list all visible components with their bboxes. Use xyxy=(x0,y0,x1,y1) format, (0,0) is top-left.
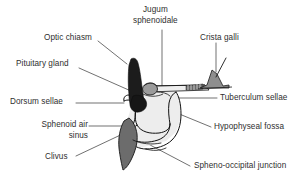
label-tuberculum-sellae-text: Tuberculum sellae xyxy=(220,93,287,102)
pituitary-gland-body xyxy=(130,95,147,112)
optic-chiasm-body xyxy=(143,83,158,95)
label-spheno-occipital-junction: Spheno-occipital junction xyxy=(194,161,286,172)
label-dorsum-sellae-text: Dorsum sellae xyxy=(10,97,63,106)
label-jugum-sphenoidale-line1: Jugum xyxy=(133,5,178,16)
label-tuberculum-sellae: Tuberculum sellae xyxy=(220,93,287,104)
label-pituitary-gland: Pituitary gland xyxy=(16,59,69,70)
label-jugum-sphenoidale: Jugum sphenoidale xyxy=(133,5,178,26)
label-dorsum-sellae: Dorsum sellae xyxy=(10,97,63,108)
label-sphenoid-air-sinus-line2: sinus xyxy=(0,131,88,142)
label-clivus: Clivus xyxy=(45,152,68,163)
label-jugum-sphenoidale-line2: sphenoidale xyxy=(133,16,178,27)
anatomy-figure: Optic chiasm Jugum sphenoidale Crista ga… xyxy=(0,0,295,183)
label-sphenoid-air-sinus: Sphenoid air sinus xyxy=(0,120,88,141)
label-hypophyseal-fossa: Hypophyseal fossa xyxy=(214,122,284,133)
label-crista-galli-text: Crista galli xyxy=(200,33,239,42)
label-hypophyseal-fossa-text: Hypophyseal fossa xyxy=(214,122,284,131)
label-pituitary-gland-text: Pituitary gland xyxy=(16,59,69,68)
label-crista-galli: Crista galli xyxy=(200,33,239,44)
frontal-crest-line xyxy=(216,58,226,77)
label-optic-chiasm-text: Optic chiasm xyxy=(44,33,92,42)
clivus-group xyxy=(119,118,137,170)
leader-pituitary-gland xyxy=(79,68,131,91)
label-clivus-text: Clivus xyxy=(45,152,68,161)
label-sphenoid-air-sinus-line1: Sphenoid air xyxy=(0,120,88,131)
clivus-wedge xyxy=(119,118,137,170)
leader-optic-chiasm xyxy=(98,41,127,64)
label-optic-chiasm: Optic chiasm xyxy=(44,33,92,44)
label-spheno-occipital-junction-text: Spheno-occipital junction xyxy=(194,161,286,170)
